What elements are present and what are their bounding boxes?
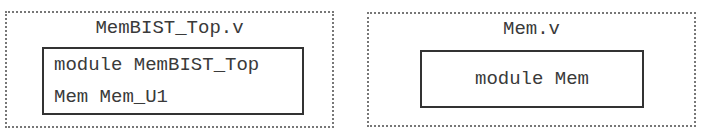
instance-declaration: Mem Mem_U1 [54, 86, 168, 108]
file-mem: Mem.v module Mem [367, 12, 696, 127]
file-name-label: MemBIST_Top.v [7, 17, 332, 39]
module-declaration: module MemBIST_Top [54, 54, 259, 76]
module-box-membist-top: module MemBIST_Top Mem Mem_U1 [42, 47, 304, 115]
module-box-mem: module Mem [420, 50, 644, 108]
file-name-label: Mem.v [369, 18, 694, 40]
module-declaration: module Mem [422, 68, 642, 90]
file-membist-top: MemBIST_Top.v module MemBIST_Top Mem Mem… [5, 11, 334, 128]
